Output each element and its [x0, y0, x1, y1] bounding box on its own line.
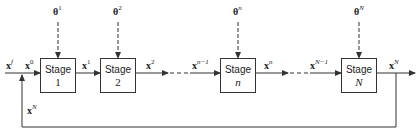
- stage-label: Stage: [225, 63, 251, 76]
- feed-label: xf: [6, 59, 13, 71]
- xN-recycle-label: xN: [27, 104, 37, 116]
- theta-2-label: θ2: [113, 5, 122, 17]
- stage-index: N: [355, 76, 362, 89]
- xn-minus-1-label: xn−1: [192, 59, 209, 71]
- stage-n-box: Stage n: [220, 58, 256, 93]
- xN-output-label: xN: [389, 59, 399, 71]
- x0-label: x0: [25, 59, 34, 71]
- stage-index: 1: [55, 76, 61, 89]
- stage-2-box: Stage 2: [100, 58, 136, 93]
- theta-n-label: θn: [233, 5, 242, 17]
- x2-label: x2: [146, 59, 155, 71]
- stage-index: n: [235, 76, 241, 89]
- stage-N-box: Stage N: [341, 58, 377, 93]
- stage-label: Stage: [45, 63, 71, 76]
- multistage-diagram: Stage 1 Stage 2 Stage n Stage N θ1 θ2 θn…: [0, 0, 419, 134]
- stage-index: 2: [115, 76, 121, 89]
- xn-label: xn: [264, 59, 273, 71]
- stage-1-box: Stage 1: [40, 58, 76, 93]
- theta-N-label: θN: [354, 5, 364, 17]
- stage-label: Stage: [346, 63, 372, 76]
- stage-label: Stage: [105, 63, 131, 76]
- theta-1-label: θ1: [53, 5, 62, 17]
- x1-label: x1: [82, 59, 91, 71]
- xN-minus-1-label: xN−1: [310, 59, 328, 71]
